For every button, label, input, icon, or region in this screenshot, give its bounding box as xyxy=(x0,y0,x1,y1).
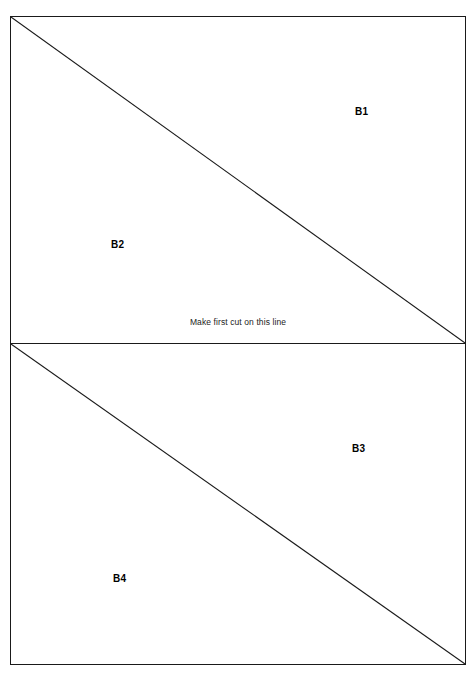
region-label-b3: B3 xyxy=(352,444,365,454)
panel-bottom-diagonal-cut-line xyxy=(11,344,465,664)
cut-instruction-text: Make first cut on this line xyxy=(0,318,476,327)
region-label-b4: B4 xyxy=(113,574,126,584)
region-label-b1: B1 xyxy=(355,107,368,117)
panel-top-diagonal-cut-line xyxy=(11,17,465,343)
cutting-template-diagram: B1 B2 B3 B4 Make first cut on this line xyxy=(0,0,476,677)
panel-top xyxy=(10,16,466,344)
panel-bottom xyxy=(10,343,466,665)
region-label-b2: B2 xyxy=(111,240,124,250)
